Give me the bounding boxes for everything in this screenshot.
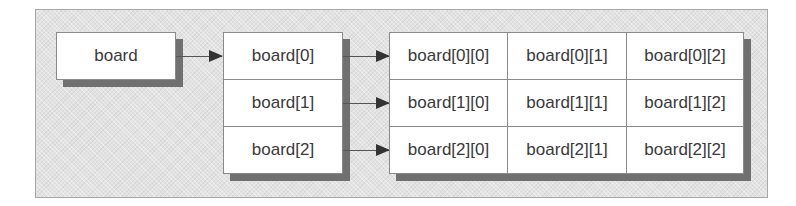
board-node: board <box>56 32 176 80</box>
row-pointer-0: board[0] <box>224 33 342 80</box>
grid-cell-0-0: board[0][0] <box>390 33 508 80</box>
row-pointer-1: board[1] <box>224 80 342 127</box>
grid-cell-2-0: board[2][0] <box>390 127 508 173</box>
grid-cell-0-1: board[0][1] <box>508 33 627 80</box>
grid-cell-0-2: board[0][2] <box>627 33 743 80</box>
arrow-row1-to-grid <box>343 103 389 104</box>
arrow-row2-to-grid <box>343 150 389 151</box>
grid-cell-1-0: board[1][0] <box>390 80 508 127</box>
arrowhead-icon <box>209 50 223 62</box>
arrow-board-to-row0 <box>176 56 222 57</box>
arrowhead-icon <box>376 144 390 156</box>
arrowhead-icon <box>376 97 390 109</box>
grid-cell-1-1: board[1][1] <box>508 80 627 127</box>
arrowhead-icon <box>376 50 390 62</box>
arrow-row0-to-grid <box>343 56 389 57</box>
grid-cell-2-1: board[2][1] <box>508 127 627 173</box>
row-pointer-2: board[2] <box>224 127 342 173</box>
grid-cell-2-2: board[2][2] <box>627 127 743 173</box>
board-label: board <box>57 33 175 79</box>
grid-cell-1-2: board[1][2] <box>627 80 743 127</box>
element-grid: board[0][0] board[0][1] board[0][2] boar… <box>389 32 744 174</box>
row-pointer-array: board[0] board[1] board[2] <box>223 32 343 174</box>
